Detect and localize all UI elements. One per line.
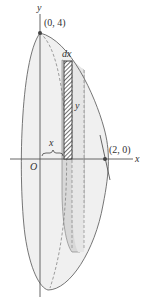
radius-x-label: x <box>48 137 54 148</box>
y-axis-label: y <box>36 2 42 13</box>
point-2-0 <box>103 157 107 161</box>
hatched-strip <box>64 61 72 159</box>
dx-label: dx <box>62 48 72 59</box>
point-0-4 <box>38 31 42 35</box>
point-0-4-label: (0, 4) <box>44 17 66 29</box>
origin-label: O <box>30 161 37 172</box>
x-axis-label: x <box>134 153 140 164</box>
strip-height-label: y <box>74 100 80 111</box>
point-2-0-label: (2, 0) <box>109 144 131 156</box>
shell-inner-face <box>72 60 84 252</box>
solid-of-revolution-diagram: y (0, 4) dx y x O (2, 0) x <box>0 0 152 297</box>
